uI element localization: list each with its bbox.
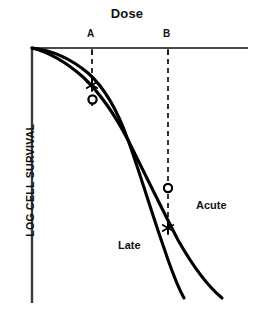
marker-acute-at-b <box>164 184 172 192</box>
y-axis-label: LOG CELL SURVIVAL <box>25 110 36 250</box>
marker-acute-at-a <box>88 95 96 103</box>
curve-late <box>32 48 184 298</box>
series-label-late: Late <box>118 240 141 251</box>
chart-title: Dose <box>0 7 254 20</box>
x-tick-label-a: A <box>87 29 94 39</box>
survival-curve-figure: Dose A B Acute Late LOG CELL SURVIVAL <box>0 0 254 311</box>
x-tick-label-b: B <box>163 29 170 39</box>
plot-area <box>0 0 254 311</box>
series-label-acute: Acute <box>196 200 227 211</box>
curve-acute <box>32 48 222 298</box>
